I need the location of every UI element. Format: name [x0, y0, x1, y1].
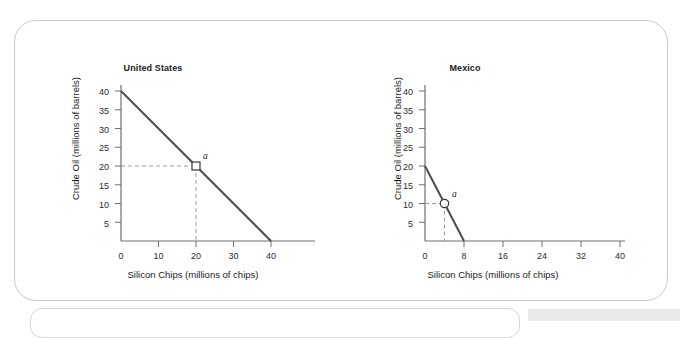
x-tick-label-mx-16: 16 [492, 251, 514, 261]
point-a-marker-mexico [440, 199, 448, 207]
y-tick-label-mx-5: 5 [391, 219, 413, 229]
x-tick-label-0: 0 [110, 251, 132, 261]
next-panel-outline-left [30, 308, 520, 338]
x-tick-label-mx-32: 32 [570, 251, 592, 261]
chart-mexico: Mexico Crude Oil (millions of barrels) S… [335, 41, 655, 291]
y-ticks-mexico [419, 91, 425, 222]
y-tick-label-mx-35: 35 [391, 106, 413, 116]
figure-panel: United States Crude Oil (millions of bar… [14, 20, 668, 301]
y-tick-label-10: 10 [87, 200, 109, 210]
x-tick-label-mx-0: 0 [414, 251, 436, 261]
x-tick-label-mx-40: 40 [609, 251, 631, 261]
chart-united-states: United States Crude Oil (millions of bar… [23, 41, 343, 291]
y-tick-label-30: 30 [87, 125, 109, 135]
y-tick-label-15: 15 [87, 181, 109, 191]
y-tick-label-35: 35 [87, 106, 109, 116]
point-a-marker-us [192, 162, 200, 170]
x-tick-label-10: 10 [148, 251, 170, 261]
x-tick-label-40: 40 [260, 251, 282, 261]
x-tick-label-mx-8: 8 [453, 251, 475, 261]
y-tick-label-mx-40: 40 [391, 87, 413, 97]
x-tick-label-mx-24: 24 [531, 251, 553, 261]
y-tick-label-25: 25 [87, 143, 109, 153]
x-tick-label-30: 30 [223, 251, 245, 261]
y-tick-label-mx-30: 30 [391, 125, 413, 135]
axis-lines-mexico [425, 85, 625, 241]
y-tick-label-20: 20 [87, 162, 109, 172]
y-tick-label-40: 40 [87, 87, 109, 97]
point-label-a-mexico: a [452, 189, 457, 199]
guide-lines-us [121, 166, 196, 241]
x-tick-label-20: 20 [185, 251, 207, 261]
axis-lines-us [121, 85, 315, 241]
guide-lines-mexico [425, 204, 445, 242]
y-tick-label-mx-20: 20 [391, 162, 413, 172]
next-panel-band-right [528, 309, 680, 321]
y-tick-label-mx-15: 15 [391, 181, 413, 191]
y-ticks-us [115, 91, 121, 222]
x-ticks-mexico [464, 241, 620, 247]
y-tick-label-mx-10: 10 [391, 200, 413, 210]
x-ticks-us [159, 241, 272, 247]
plot-area-us [23, 41, 343, 291]
point-label-a-us: a [203, 151, 208, 161]
y-tick-label-mx-25: 25 [391, 143, 413, 153]
y-tick-label-5: 5 [87, 219, 109, 229]
